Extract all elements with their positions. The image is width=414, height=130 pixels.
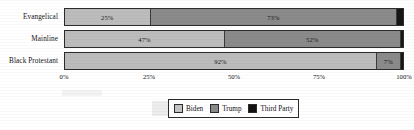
segment-value-label: 25% (101, 14, 113, 21)
scan-artifact (62, 90, 102, 96)
category-label-mainline: Mainline (0, 30, 58, 48)
bar-row-black-protestant: Black Protestant 92% 7% (0, 52, 414, 70)
segment-biden-black-protestant: 92% (65, 53, 376, 69)
category-label-black-protestant: Black Protestant (0, 52, 58, 70)
x-axis-tick-75: 75% (313, 73, 325, 80)
category-label-evangelical: Evangelical (0, 8, 58, 26)
segment-value-label: 73% (267, 14, 279, 21)
legend-swatch-trump (210, 104, 219, 113)
legend-item-third-party: Third Party (248, 104, 293, 113)
x-axis-tick-50: 50% (228, 73, 240, 80)
segment-value-label: 7% (384, 58, 393, 65)
stacked-bar-chart: Evangelical 25% 73% Mainline 47% (0, 0, 414, 130)
bar-row-mainline: Mainline 47% 52% (0, 30, 414, 48)
segment-trump-evangelical: 73% (150, 9, 397, 25)
segment-third-party-evangelical (396, 9, 403, 25)
segment-biden-mainline: 47% (65, 31, 224, 47)
segment-value-label: 52% (306, 36, 318, 43)
legend-label-third-party: Third Party (260, 105, 293, 113)
x-axis-tick-0: 0% (60, 73, 69, 80)
stacked-bar-evangelical: 25% 73% (64, 8, 404, 26)
x-axis: 0% 25% 50% 75% 100% (64, 73, 404, 87)
legend-label-trump: Trump (222, 105, 241, 113)
legend-label-biden: Biden (186, 105, 203, 113)
segment-biden-evangelical: 25% (65, 9, 150, 25)
chart-legend: Biden Trump Third Party (168, 99, 299, 118)
x-axis-tick-100: 100% (396, 73, 411, 80)
legend-item-trump: Trump (210, 104, 241, 113)
plot-area: Evangelical 25% 73% Mainline 47% (0, 5, 414, 73)
segment-third-party-black-protestant (400, 53, 403, 69)
segment-trump-black-protestant: 7% (376, 53, 400, 69)
x-axis-tick-25: 25% (143, 73, 155, 80)
stacked-bar-mainline: 47% 52% (64, 30, 404, 48)
segment-third-party-mainline (400, 31, 403, 47)
segment-value-label: 47% (138, 36, 150, 43)
stacked-bar-black-protestant: 92% 7% (64, 52, 404, 70)
legend-item-biden: Biden (174, 104, 203, 113)
legend-swatch-biden (174, 104, 183, 113)
segment-value-label: 92% (214, 58, 226, 65)
bar-row-evangelical: Evangelical 25% 73% (0, 8, 414, 26)
segment-trump-mainline: 52% (224, 31, 400, 47)
legend-swatch-third-party (248, 104, 257, 113)
